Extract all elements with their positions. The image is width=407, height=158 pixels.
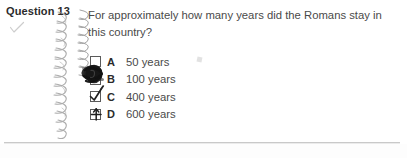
ink-smudge-icon xyxy=(197,57,203,63)
checkmark-icon xyxy=(88,85,105,103)
answer-options-list: A 50 years xyxy=(90,53,390,123)
question-card: Question 13 xyxy=(0,0,407,158)
option-row-d[interactable]: D 600 years xyxy=(90,106,390,124)
option-text-b: 100 years xyxy=(126,73,176,85)
option-row-b[interactable]: B 100 years xyxy=(90,71,390,89)
question-text: For approximately how many years did the… xyxy=(88,7,400,41)
cross-mark-icon xyxy=(88,106,105,124)
option-letter-c: C xyxy=(107,91,121,103)
page-bottom-area xyxy=(0,144,407,158)
option-row-c[interactable]: C 400 years xyxy=(90,88,390,106)
option-text-d: 600 years xyxy=(126,108,176,120)
option-text-a: 50 years xyxy=(126,56,169,68)
option-row-a[interactable]: A 50 years xyxy=(90,53,390,71)
scribbled-checkbox[interactable] xyxy=(90,74,101,85)
crossed-checkbox[interactable] xyxy=(90,109,101,120)
stray-pencil-mark-icon xyxy=(56,134,65,142)
empty-checkbox-icon[interactable] xyxy=(90,56,101,67)
ticked-checkbox[interactable] xyxy=(90,91,101,102)
question-checkmark-icon xyxy=(9,21,25,35)
option-letter-a: A xyxy=(107,56,121,68)
option-letter-b: B xyxy=(107,73,121,85)
option-text-c: 400 years xyxy=(126,91,176,103)
option-letter-d: D xyxy=(107,108,121,120)
question-number-label: Question 13 xyxy=(6,5,70,17)
